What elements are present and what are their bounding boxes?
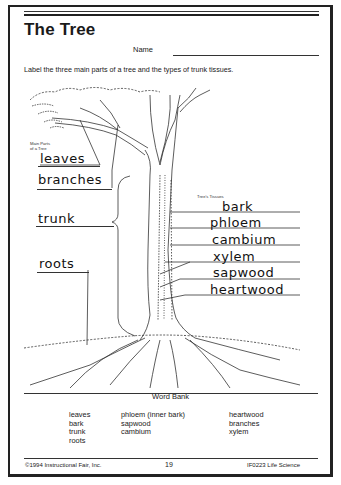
answer-line-trunk [36,226,114,227]
word-bank-column-1: leaves bark trunk roots [69,411,90,445]
tissues-caption: Tree's Tissues [197,194,224,199]
answer-heartwood[interactable]: heartwood [210,282,284,297]
answer-cambium[interactable]: cambium [212,232,276,247]
answer-leaves[interactable]: leaves [40,151,85,166]
answer-line-roots [37,272,89,273]
word-bank-column-2: phloem (inner bark) sapwood cambium [121,411,185,437]
answer-line-leaves [38,166,100,167]
main-parts-caption: Main Parts of a Tree [30,141,50,151]
series-label: IF0223 Life Science [247,462,300,468]
answer-phloem[interactable]: phloem [210,215,262,230]
answer-branches[interactable]: branches [38,172,102,187]
footer-rule [24,458,318,459]
answer-sapwood[interactable]: sapwood [213,265,274,280]
word-bank-column-3: heartwood branches xylem [229,411,264,437]
answer-roots[interactable]: roots [39,256,74,271]
page-number: 19 [165,461,173,468]
answer-xylem[interactable]: xylem [213,249,255,264]
answer-trunk[interactable]: trunk [38,211,75,226]
word-bank-title: Word Bank [0,392,341,401]
answer-bark[interactable]: bark [222,199,253,214]
answer-line-branches [37,189,112,190]
copyright: ©1994 Instructional Fair, Inc. [25,462,101,468]
